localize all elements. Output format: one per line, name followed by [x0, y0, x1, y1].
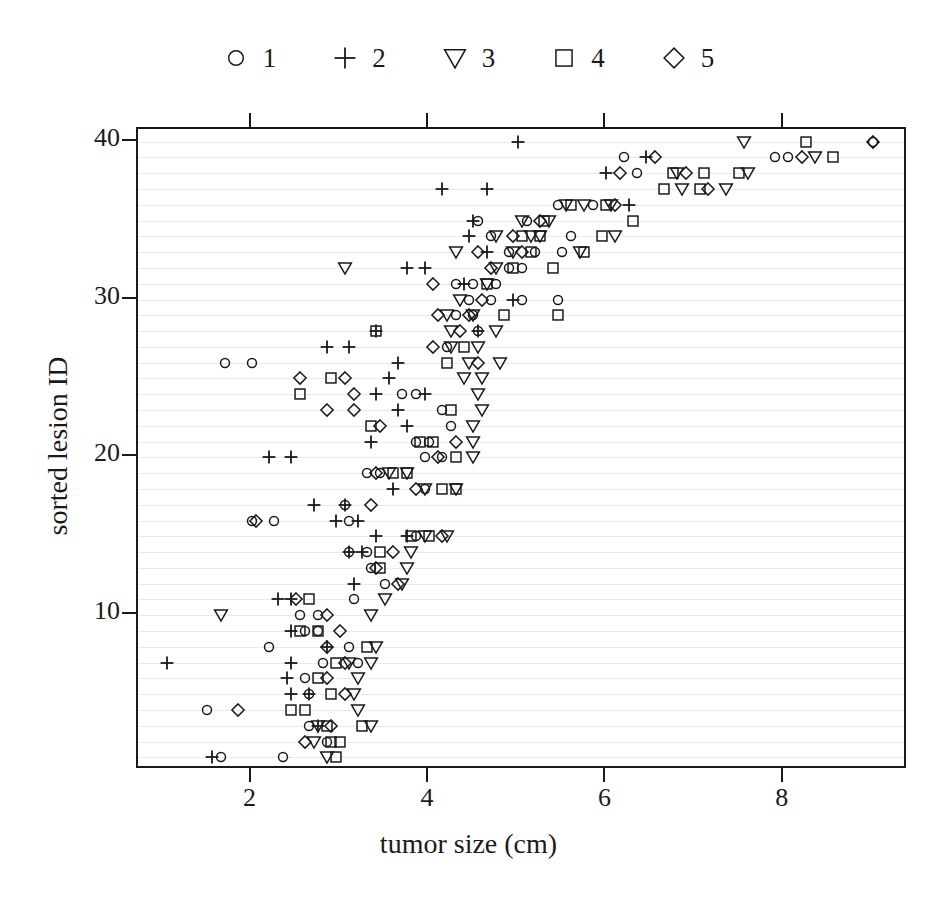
data-point-series-3	[492, 355, 508, 371]
data-point-series-4	[292, 623, 308, 639]
triangle-down-icon	[442, 45, 468, 71]
data-point-series-3	[474, 402, 490, 418]
diamond-icon	[661, 45, 687, 71]
data-points-layer	[138, 129, 904, 766]
data-point-series-2	[399, 418, 415, 434]
legend-item-2[interactable]: 2	[332, 45, 386, 72]
data-point-series-2	[279, 670, 295, 686]
data-point-series-3	[474, 370, 490, 386]
data-point-series-5	[319, 639, 335, 655]
data-point-series-5	[323, 718, 339, 734]
data-point-series-3	[363, 607, 379, 623]
data-point-series-2	[341, 339, 357, 355]
x-tick-top	[249, 113, 251, 127]
data-point-series-5	[470, 244, 486, 260]
data-point-series-5	[390, 576, 406, 592]
data-point-series-2	[381, 370, 397, 386]
data-point-series-4	[656, 181, 672, 197]
data-point-series-3	[456, 370, 472, 386]
data-point-series-2	[510, 134, 526, 150]
data-point-series-5	[430, 307, 446, 323]
data-point-series-1	[550, 292, 566, 308]
data-point-series-5	[385, 544, 401, 560]
legend-item-3[interactable]: 3	[442, 45, 496, 72]
data-point-series-5	[483, 260, 499, 276]
data-point-series-1	[443, 418, 459, 434]
data-point-series-2	[319, 339, 335, 355]
data-point-series-1	[554, 244, 570, 260]
data-point-series-1	[563, 228, 579, 244]
data-point-series-4	[443, 402, 459, 418]
data-point-series-2	[204, 749, 220, 765]
data-point-series-5	[288, 591, 304, 607]
data-point-series-3	[350, 702, 366, 718]
data-point-series-3	[350, 670, 366, 686]
data-point-series-5	[346, 386, 362, 402]
data-point-series-3	[377, 591, 393, 607]
data-point-series-3	[448, 244, 464, 260]
data-point-series-3	[452, 292, 468, 308]
y-tick-left	[122, 454, 136, 456]
data-point-series-3	[399, 560, 415, 576]
data-point-series-5	[514, 244, 530, 260]
data-point-series-1	[275, 749, 291, 765]
data-point-series-3	[403, 544, 419, 560]
data-point-series-3	[718, 181, 734, 197]
scatter-plot-figure: 12345 246810203040 tumor size (cm) sorte…	[0, 0, 937, 897]
legend-item-4[interactable]: 4	[551, 45, 605, 72]
data-point-series-4	[297, 702, 313, 718]
legend-item-1[interactable]: 1	[223, 45, 277, 72]
legend-item-5[interactable]: 5	[661, 45, 715, 72]
data-point-series-2	[465, 213, 481, 229]
data-point-series-4	[479, 276, 495, 292]
data-point-series-5	[248, 513, 264, 529]
data-point-series-2	[390, 355, 406, 371]
plot-area	[136, 127, 906, 768]
data-point-series-5	[448, 434, 464, 450]
data-point-series-5	[434, 528, 450, 544]
data-point-series-2	[301, 686, 317, 702]
legend-label: 4	[591, 45, 605, 72]
x-tick-top	[603, 113, 605, 127]
legend-label: 5	[701, 45, 715, 72]
data-point-series-4	[545, 260, 561, 276]
plus-icon	[332, 45, 358, 71]
x-tick-bottom	[781, 768, 783, 782]
data-point-series-5	[337, 655, 353, 671]
legend-label: 1	[263, 45, 277, 72]
data-point-series-5	[430, 449, 446, 465]
data-point-series-5	[425, 339, 441, 355]
data-point-series-1	[341, 639, 357, 655]
data-point-series-5	[337, 686, 353, 702]
data-point-series-4	[292, 386, 308, 402]
legend: 12345	[0, 36, 937, 80]
data-point-series-2	[385, 481, 401, 497]
data-point-series-4	[359, 639, 375, 655]
x-tick-bottom	[426, 768, 428, 782]
data-point-series-5	[678, 165, 694, 181]
data-point-series-2	[283, 655, 299, 671]
data-point-series-2	[368, 528, 384, 544]
circle-icon	[223, 45, 249, 71]
legend-label: 2	[372, 45, 386, 72]
data-point-series-2	[461, 228, 477, 244]
x-tick-label: 6	[574, 783, 634, 813]
data-point-series-4	[731, 165, 747, 181]
x-axis-title: tumor size (cm)	[0, 828, 937, 860]
data-point-series-5	[372, 418, 388, 434]
data-point-series-4	[448, 481, 464, 497]
data-point-series-3	[488, 228, 504, 244]
data-point-series-2	[417, 260, 433, 276]
data-point-series-4	[328, 749, 344, 765]
data-point-series-2	[159, 655, 175, 671]
data-point-series-3	[465, 449, 481, 465]
data-point-series-4	[532, 228, 548, 244]
x-tick-label: 8	[752, 783, 812, 813]
data-point-series-5	[474, 292, 490, 308]
data-point-series-3	[488, 323, 504, 339]
data-point-series-2	[363, 434, 379, 450]
data-point-series-3	[470, 386, 486, 402]
data-point-series-1	[629, 165, 645, 181]
data-point-series-2	[354, 544, 370, 560]
data-point-series-5	[337, 370, 353, 386]
